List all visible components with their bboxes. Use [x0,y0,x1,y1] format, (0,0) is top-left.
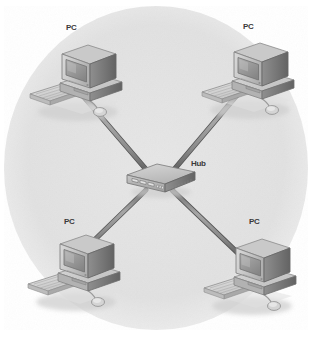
label-pc-bottom-right: PC [249,218,260,226]
network-topology-diagram [0,0,313,346]
label-hub: Hub [191,160,206,168]
label-pc-bottom-left: PC [64,218,75,226]
diagram-canvas: PC PC PC PC Hub [0,0,313,346]
label-pc-top-left: PC [66,24,77,32]
label-pc-top-right: PC [243,23,254,31]
